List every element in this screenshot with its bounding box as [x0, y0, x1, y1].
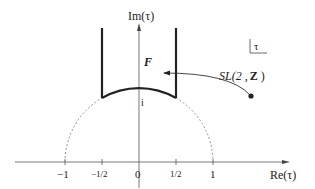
tick-label: 0	[135, 168, 141, 180]
imaginary-axis-label: Im(τ)	[128, 9, 154, 23]
real-axis-arrow-icon	[282, 160, 290, 164]
tick-label: −1	[57, 168, 69, 180]
tick-label: 1	[210, 168, 216, 180]
group-label-z: Z	[250, 69, 258, 83]
fundamental-domain-diagram: Im(τ) Re(τ) −1 −1/2 0 1/2 1 F i SL(2 ,Z)…	[0, 0, 315, 189]
imaginary-axis-arrow-icon	[137, 23, 141, 31]
tick-label: 1/2	[170, 169, 182, 179]
group-label: SL(2 ,Z)	[219, 69, 265, 83]
group-label-text: SL(2 ,	[219, 69, 248, 83]
unit-circle-left-dashed	[65, 98, 102, 162]
region-label-f: F	[143, 55, 152, 69]
point-label-i: i	[141, 97, 144, 108]
group-label-close: )	[261, 69, 265, 83]
unit-circle-right-dashed	[176, 98, 213, 162]
tick-label: −1/2	[91, 169, 108, 179]
real-axis-label: Re(τ)	[270, 168, 296, 182]
plane-label-tau: τ	[254, 40, 259, 52]
sample-point	[248, 93, 253, 98]
